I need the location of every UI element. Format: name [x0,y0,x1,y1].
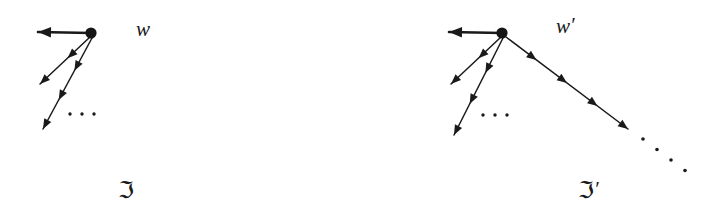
left-root-label: w [136,17,150,41]
right-ellipsis-dot-1 [481,113,484,116]
right-descending-chain-edge-arrowhead-4 [618,120,628,129]
left-root-node [85,27,96,38]
right-long-diagonal-edge-arrowhead-1 [485,62,493,73]
right-chain-dot-4 [683,169,687,173]
left-short-diagonal-edge-line [40,37,90,84]
left-long-diagonal-edge-arrowhead-3 [43,118,51,129]
left-long-diagonal-edge [43,38,92,129]
left-tree-label: ℑ [118,177,134,203]
right-root-label-prime: ′ [570,13,575,37]
left-ellipsis-dot-2 [80,112,83,115]
right-tree-label: ℑ′ [578,177,599,203]
right-long-diagonal-edge-arrowhead-3 [454,124,462,135]
right-tree-label-prime: ′ [594,177,599,201]
right-ellipsis-dot-3 [505,113,508,116]
left-ellipsis-dot-1 [68,112,71,115]
right-ellipsis-dots [481,113,508,116]
left-long-diagonal-edge-arrowhead-2 [59,89,67,100]
right-ellipsis-dot-2 [493,113,496,116]
tree-left: wℑ [38,17,150,203]
right-root-node [496,27,507,38]
right-short-diagonal-edge [451,37,501,84]
right-chain-continuation-dots [641,137,687,172]
right-long-diagonal-edge [454,38,503,135]
right-descending-chain-edge-arrowhead-2 [557,74,567,83]
left-horizontal-edge [38,27,91,37]
right-chain-dot-3 [669,158,673,162]
right-chain-dot-2 [655,148,659,152]
right-descending-chain-edge [506,37,628,129]
right-descending-chain-edge-arrowhead-3 [587,97,597,106]
left-ellipsis-dots [68,112,95,115]
figure-root: wℑw′ℑ′ [0,0,717,222]
left-short-diagonal-edge [40,37,90,84]
right-long-diagonal-edge-line [454,38,503,135]
left-ellipsis-dot-3 [92,112,95,115]
right-root-label: w′ [556,13,575,38]
tree-right: w′ℑ′ [449,13,687,203]
right-chain-dot-1 [641,137,645,141]
left-long-diagonal-edge-arrowhead-1 [74,60,82,71]
left-horizontal-edge-arrowhead-1 [38,27,51,37]
left-long-diagonal-edge-line [43,38,92,129]
right-long-diagonal-edge-arrowhead-2 [470,93,478,104]
diagram-canvas: wℑw′ℑ′ [0,0,717,222]
right-horizontal-edge [449,27,502,37]
right-descending-chain-edge-arrowhead-1 [526,51,536,60]
right-horizontal-edge-arrowhead-1 [449,27,462,37]
right-short-diagonal-edge-line [451,37,501,84]
